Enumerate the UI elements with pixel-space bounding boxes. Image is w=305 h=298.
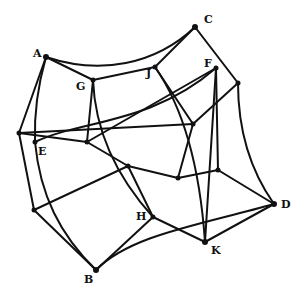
vertex-K [202,239,208,245]
vertex-D [271,201,277,207]
label-D: D [281,198,291,211]
label-E: E [38,145,46,158]
edges [19,27,274,270]
vertex-G [91,78,96,83]
edge-D-RL [218,170,274,204]
label-A: A [32,47,42,60]
label-B: B [84,273,93,286]
edge-A-C [46,27,195,66]
graph-diagram: A C G J F E H D K B [0,0,305,298]
vertex-RL [216,168,221,173]
edge-RL-F [216,68,218,170]
vertex-E [33,140,38,145]
vertex-A [43,54,49,60]
edge-H-K [153,217,205,242]
edge-A-G [46,57,93,80]
vertex-M [85,140,90,145]
vertex-Q [176,176,181,181]
vertex-F [214,66,219,71]
edge-LL-N [34,166,128,210]
edge-J-C [155,27,195,67]
edge-LL-B [34,210,96,270]
edge-K-D [205,204,274,242]
edge-G-M [87,80,93,142]
vertex-B [93,267,99,273]
vertex-P [191,122,196,127]
edge-RL-Q [178,170,218,178]
edge-N-Q [128,166,178,178]
label-G: G [76,80,85,93]
label-F: F [204,57,212,70]
vertex-LL [32,208,37,213]
label-H: H [136,210,146,223]
label-K: K [211,244,221,257]
label-J: J [145,67,151,80]
edge-M-F [87,68,216,142]
vertex-J [153,65,158,70]
edge-L-LL [19,133,34,210]
label-C: C [204,13,213,26]
edge-F-K [205,68,216,242]
edge-B-D [96,204,274,270]
vertex-L [17,131,22,136]
vertex-N [126,164,131,169]
vertex-C [192,24,198,30]
vertex-R [236,81,241,86]
vertex-H [151,215,156,220]
